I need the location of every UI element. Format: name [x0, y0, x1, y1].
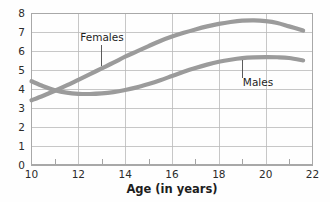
y-tick-label: 8 [18, 7, 25, 19]
x-tick-label: 20 [259, 168, 272, 180]
chart-container: FemalesMales 012345678 10121416182022 Ag… [0, 0, 330, 202]
y-tick-label: 3 [18, 102, 25, 114]
x-tick-label: 18 [212, 168, 225, 180]
y-tick-label: 2 [18, 121, 25, 133]
x-tick-label: 22 [306, 168, 319, 180]
y-axis-tick-labels: 012345678 [18, 7, 25, 171]
x-tick-label: 12 [72, 168, 85, 180]
x-axis-title: Age (in years) [126, 182, 217, 196]
series-label-females: Females [80, 31, 123, 43]
y-tick-label: 5 [18, 64, 25, 76]
y-tick-label: 7 [18, 26, 25, 38]
y-tick-label: 6 [18, 45, 25, 57]
line-chart: FemalesMales 012345678 10121416182022 Ag… [0, 0, 330, 202]
x-tick-label: 10 [25, 168, 38, 180]
x-tick-label: 14 [118, 168, 132, 180]
y-tick-label: 4 [18, 83, 25, 95]
x-tick-label: 16 [165, 168, 179, 180]
y-tick-label: 1 [18, 140, 25, 152]
series-label-males: Males [243, 76, 273, 88]
